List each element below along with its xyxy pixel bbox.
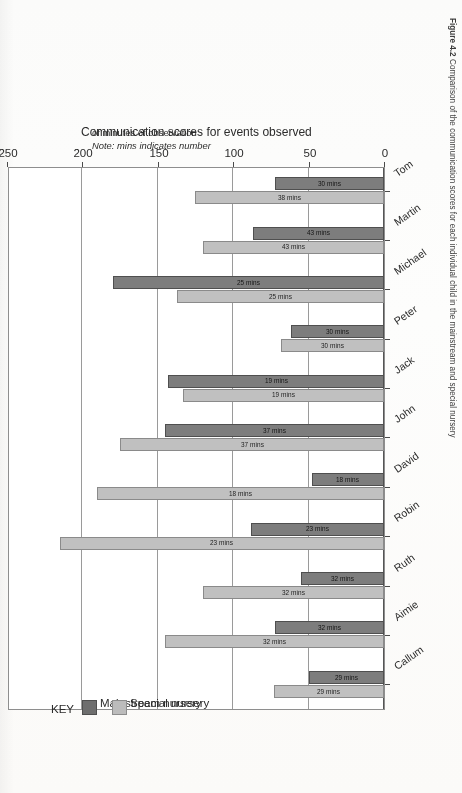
category-label-david: David	[392, 449, 421, 474]
category-label-callum: Callum	[392, 644, 426, 673]
category-tick-david	[385, 487, 390, 488]
category-tick-michael	[385, 289, 390, 290]
category-label-tom: Tom	[392, 157, 415, 178]
category-label-peter: Peter	[392, 302, 420, 326]
category-label-jack: Jack	[392, 354, 417, 376]
legend-swatch-special	[112, 700, 127, 715]
category-label-aimie: Aimie	[392, 598, 421, 623]
legend-swatch-mainstream	[82, 700, 97, 715]
legend-label-special: Special nursery	[130, 697, 209, 709]
value-tick-100	[233, 162, 234, 167]
figure-caption-text: Comparison of the communication scores f…	[448, 59, 457, 438]
category-tick-robin	[385, 536, 390, 537]
category-label-michael: Michael	[392, 247, 429, 278]
category-tick-ruth	[385, 586, 390, 587]
legend-title: KEY	[51, 703, 74, 715]
chart-legend: KEY Mainstream nursery Special nursery	[22, 633, 192, 773]
value-tick-0	[384, 162, 385, 167]
category-tick-martin	[385, 240, 390, 241]
category-tick-jack	[385, 388, 390, 389]
category-tick-john	[385, 438, 390, 439]
value-tick-50	[309, 162, 310, 167]
category-tick-callum	[385, 684, 390, 685]
value-tick-label-0: 0	[369, 147, 401, 159]
figure-caption-number: Figure 4.2	[448, 18, 457, 57]
category-tick-tom	[385, 191, 390, 192]
category-label-ruth: Ruth	[392, 551, 417, 574]
value-tick-200	[82, 162, 83, 167]
value-tick-label-250: 250	[0, 147, 24, 159]
category-label-robin: Robin	[392, 498, 422, 524]
category-tick-aimie	[385, 635, 390, 636]
value-tick-250	[7, 162, 8, 167]
value-tick-label-50: 50	[294, 147, 326, 159]
figure-caption: Figure 4.2 Comparison of the communicati…	[447, 18, 458, 788]
note-line-1: Note: mins indicates number	[92, 140, 252, 153]
figure-rotated-container: 29 mins29 mins32 mins32 mins32 mins32 mi…	[0, 0, 462, 793]
category-label-martin: Martin	[392, 201, 423, 228]
category-tick-peter	[385, 339, 390, 340]
value-tick-150	[158, 162, 159, 167]
category-label-john: John	[392, 402, 418, 425]
chart-note: Note: mins indicates number of minutes o…	[92, 128, 252, 153]
note-line-2: of minutes of observation	[92, 128, 252, 141]
